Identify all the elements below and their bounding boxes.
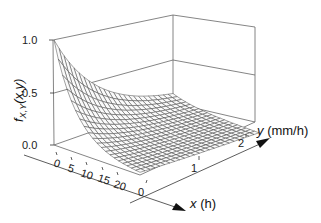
- surface-mesh: [54, 40, 259, 172]
- y-axis-arrow-icon: [256, 138, 270, 148]
- y-axis-label: y (mm/h): [256, 123, 308, 138]
- surface-plot: 0.0 0.5 1.0 fX,Y(x,y) 0 5 10 15 20 x (h)…: [0, 0, 321, 223]
- z-tick-label: 1.0: [22, 34, 37, 46]
- z-axis-label: fX,Y(x,y): [11, 79, 28, 122]
- z-tick-label: 0.0: [22, 139, 37, 151]
- x-axis-label: x (h): [189, 196, 216, 211]
- y-tick-label: 2: [238, 137, 244, 149]
- y-tick-label: 0: [138, 186, 144, 198]
- svg-text:fX,Y(x,y): fX,Y(x,y): [11, 79, 28, 122]
- x-tick-label: 10: [79, 166, 94, 181]
- y-tick-label: 1: [191, 162, 197, 174]
- x-axis-arrow-icon: [172, 203, 186, 211]
